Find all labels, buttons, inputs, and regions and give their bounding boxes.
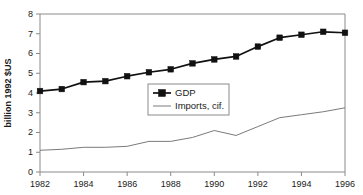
data-point-gdp <box>37 88 43 94</box>
y-tick-label: 7 <box>28 29 33 39</box>
data-point-gdp <box>59 86 65 92</box>
data-point-gdp <box>233 54 239 60</box>
data-point-gdp <box>81 79 87 85</box>
y-tick-label: 3 <box>28 108 33 118</box>
y-tick-label: 2 <box>28 127 33 137</box>
data-point-gdp <box>255 44 261 50</box>
y-tick-label: 0 <box>28 167 33 177</box>
x-tick-label: 1990 <box>204 179 224 189</box>
x-axis-ticks: 19821984198619881990199219941996 <box>30 172 355 189</box>
x-tick-label: 1992 <box>248 179 268 189</box>
y-axis-title: billion 1992 $US <box>3 58 13 127</box>
y-tick-label: 6 <box>28 48 33 58</box>
chart-legend: GDP Imports, cif. <box>148 84 229 115</box>
data-point-gdp <box>299 32 305 38</box>
line-chart: billion 1992 $US 012345678 1982198419861… <box>0 0 363 195</box>
data-point-gdp <box>146 69 152 75</box>
x-tick-label: 1984 <box>74 179 94 189</box>
data-point-gdp <box>342 30 348 36</box>
legend-label-gdp: GDP <box>175 87 196 98</box>
y-tick-label: 4 <box>28 88 33 98</box>
data-point-gdp <box>124 73 130 79</box>
data-point-gdp <box>277 35 283 41</box>
chart-container: billion 1992 $US 012345678 1982198419861… <box>0 0 363 195</box>
x-tick-label: 1994 <box>291 179 311 189</box>
legend-label-imports: Imports, cif. <box>175 100 224 111</box>
x-tick-label: 1982 <box>30 179 50 189</box>
data-point-gdp <box>168 67 174 73</box>
data-point-gdp <box>211 57 217 63</box>
y-tick-label: 5 <box>28 68 33 78</box>
y-tick-label: 8 <box>28 9 33 19</box>
legend-marker-gdp-square <box>159 90 166 97</box>
x-tick-label: 1996 <box>335 179 355 189</box>
data-point-gdp <box>320 29 326 35</box>
x-tick-label: 1986 <box>117 179 137 189</box>
y-tick-label: 1 <box>28 147 33 157</box>
x-tick-label: 1988 <box>161 179 181 189</box>
data-point-gdp <box>190 61 196 67</box>
data-point-gdp <box>103 78 109 84</box>
